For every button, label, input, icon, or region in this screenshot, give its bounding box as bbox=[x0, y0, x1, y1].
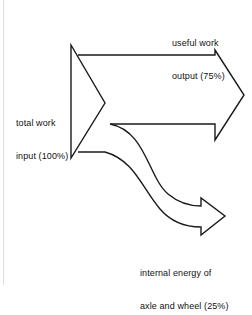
label-useful-work-output-line1: useful work bbox=[172, 38, 225, 49]
label-useful-work-output: useful work output (75%) bbox=[172, 16, 225, 104]
label-internal-energy: internal energy of axle and wheel (25%) bbox=[140, 246, 229, 315]
label-total-work-input-line1: total work bbox=[16, 118, 68, 129]
internal-energy-flow-band bbox=[78, 124, 225, 235]
label-useful-work-output-line2: output (75%) bbox=[172, 71, 225, 82]
label-total-work-input: total work input (100%) bbox=[16, 96, 68, 184]
label-internal-energy-line2: axle and wheel (25%) bbox=[140, 301, 229, 312]
label-internal-energy-line1: internal energy of bbox=[140, 268, 229, 279]
label-total-work-input-line2: input (100%) bbox=[16, 151, 68, 162]
